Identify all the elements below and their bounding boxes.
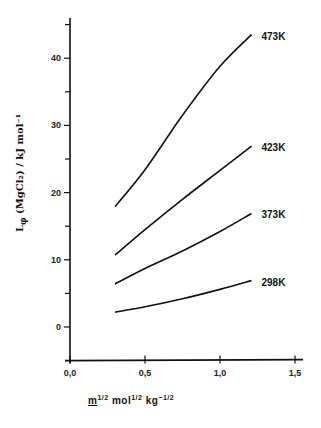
chart-plot: 0102030400,00,51,01,5473K423K373K298K xyxy=(0,0,321,428)
y-axis-label: Lφ (MgCl₂) / kJ mol⁻¹ xyxy=(14,114,28,232)
y-tick-label: 0 xyxy=(56,322,61,332)
xlabel-exp3: −1/2 xyxy=(158,394,174,401)
xlabel-m: m xyxy=(88,395,97,406)
y-tick-label: 40 xyxy=(51,53,61,63)
xlabel-exp1: 1/2 xyxy=(97,394,108,401)
series-label-423K: 423K xyxy=(262,142,287,153)
ylabel-sub: φ xyxy=(18,217,28,225)
ylabel-rest: (MgCl₂) / kJ mol⁻¹ xyxy=(14,114,25,218)
curve-298K xyxy=(115,281,252,313)
x-axis-label: m1/2 mol1/2 kg−1/2 xyxy=(88,394,174,406)
x-axis-line xyxy=(65,360,303,361)
xlabel-exp2: 1/2 xyxy=(131,394,142,401)
x-tick-label: 0,0 xyxy=(64,368,77,378)
xlabel-kg: kg xyxy=(142,395,158,406)
x-tick-label: 1,5 xyxy=(289,368,302,378)
curve-473K xyxy=(115,35,252,207)
y-tick-label: 10 xyxy=(51,255,61,265)
y-tick-label: 20 xyxy=(51,188,61,198)
x-tick-label: 1,0 xyxy=(214,368,227,378)
ylabel-main: L xyxy=(14,225,25,232)
series-label-298K: 298K xyxy=(262,277,287,288)
curve-423K xyxy=(115,146,252,255)
y-tick-label: 30 xyxy=(51,120,61,130)
curve-373K xyxy=(115,213,252,284)
xlabel-mol: mol xyxy=(109,395,132,406)
series-label-373K: 373K xyxy=(262,209,287,220)
x-tick-label: 0,5 xyxy=(139,368,152,378)
series-label-473K: 473K xyxy=(262,31,287,42)
